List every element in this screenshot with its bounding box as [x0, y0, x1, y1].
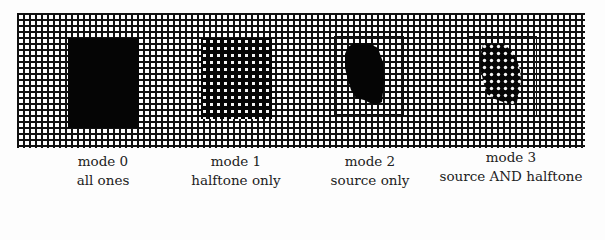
- mode0-title: mode 0: [28, 152, 178, 171]
- mode3-caption: mode 3 source AND halftone: [426, 148, 596, 186]
- mode0-all-ones-area: [68, 38, 139, 128]
- mode3-description: source AND halftone: [426, 167, 596, 186]
- mode1-title: mode 1: [161, 152, 311, 171]
- mode0-description: all ones: [28, 171, 178, 190]
- mode2-title: mode 2: [295, 152, 445, 171]
- mode2-source-blob: [334, 36, 404, 115]
- mode3-title: mode 3: [426, 148, 596, 167]
- mode1-caption: mode 1 halftone only: [161, 152, 311, 190]
- mode0-caption: mode 0 all ones: [28, 152, 178, 190]
- mode3-source-and-halftone-blob: [467, 36, 537, 116]
- mode2-caption: mode 2 source only: [295, 152, 445, 190]
- mode1-halftone-area: [201, 38, 272, 119]
- mode1-description: halftone only: [161, 171, 311, 190]
- mode2-description: source only: [295, 171, 445, 190]
